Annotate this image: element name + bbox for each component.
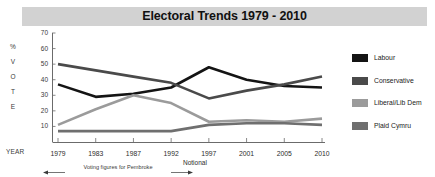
x-axis-tick-label: 2001 [230,150,264,158]
legend-item[interactable]: Labour [352,52,432,64]
legend-label: Conservative [374,77,414,85]
x-axis-tick-label: 2010 [305,150,339,158]
y-axis-tick-label: 50 [34,61,48,68]
y-axis-tick-label: 30 [34,92,48,99]
y-axis-tick-label: 20 [34,108,48,115]
series-lines [58,64,322,131]
legend-swatch [352,54,368,62]
plot-area [52,30,325,146]
y-axis-tick-label: 70 [34,30,48,37]
series-line [58,95,322,125]
y-axis-label-char: V [11,59,15,66]
legend-label: Labour [374,54,395,62]
series-line [58,123,322,131]
x-axis-tick-label: 1987 [116,150,150,158]
x-axis-tick-label: 1979 [41,150,75,158]
x-axis-tick-label: 1983 [79,150,113,158]
axis-lines [52,33,325,143]
chart-container: Electoral Trends 1979 - 2010 % V O T E Y… [0,0,435,177]
pembroke-annotation: Voting figures for Pembroke [43,163,193,172]
x-axis-tick-label: 2005 [267,150,301,158]
legend-swatch [352,77,368,85]
y-axis-label-char: O [10,74,15,81]
chart-title-band: Electoral Trends 1979 - 2010 [22,7,427,26]
y-axis-tick-label: 40 [34,77,48,84]
y-axis-label-char: T [11,89,15,96]
page-title: Electoral Trends 1979 - 2010 [22,7,427,26]
y-axis-label-char: E [11,104,15,111]
legend-label: Liberal/Lib Dem [374,99,422,107]
x-axis-tick-label: 1992 [154,150,188,158]
series-line [58,64,322,98]
legend-swatch [352,122,368,130]
legend-item[interactable]: Conservative [352,75,432,87]
legend-item[interactable]: Plaid Cymru [352,120,432,132]
y-axis-label-char: % [10,44,16,51]
y-axis-label: % V O T E [7,44,19,111]
legend-label: Plaid Cymru [374,122,411,130]
chart-legend: LabourConservativeLiberal/Lib DemPlaid C… [352,52,432,142]
legend-item[interactable]: Liberal/Lib Dem [352,97,432,109]
x-axis-label: YEAR [6,148,25,155]
legend-swatch [352,99,368,107]
y-axis-tick-label: 10 [34,123,48,130]
plot-svg [52,30,325,146]
x-axis-tick-label: 1997 [192,150,226,158]
pembroke-annotation-text: Voting figures for Pembroke [64,163,172,172]
y-axis-tick-label: 60 [34,46,48,53]
y-axis-ticks: 10203040506070 [30,30,48,146]
